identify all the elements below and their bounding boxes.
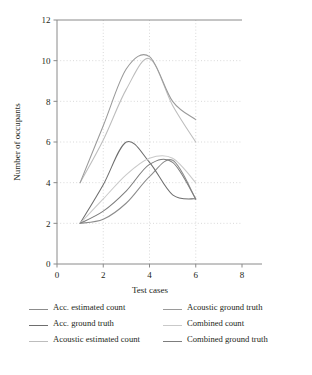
y-axis-title: Number of occupants [12,103,22,181]
legend-item[interactable]: Acoustic estimated count [29,334,155,347]
plot-area: 02468101202468 Number of occupants Test … [0,0,312,300]
y-tick-label: 0 [46,259,51,269]
legend-label: Combined count [187,318,244,329]
axis-ticks [54,20,243,268]
x-axis-title: Test cases [132,285,169,295]
legend-swatch-line-icon [29,321,48,331]
legend-item[interactable]: Combined count [163,318,289,331]
x-tick-label: 8 [240,270,245,280]
legend-item[interactable]: Acoustic ground truth [163,302,289,315]
legend-item[interactable]: Acc. estimated count [29,302,155,315]
y-tick-label: 4 [46,178,51,188]
x-tick-label: 6 [194,270,199,280]
y-tick-label: 6 [46,137,51,147]
y-tick-label: 12 [42,15,51,25]
y-tick-label: 8 [46,97,51,107]
legend-label: Acc. estimated count [53,302,125,313]
chart-container: 02468101202468 Number of occupants Test … [0,0,312,375]
series-line-5 [80,159,196,223]
legend-label: Combined ground truth [187,334,268,345]
legend-item[interactable]: Combined ground truth [163,334,289,347]
legend-swatch-line-icon [163,337,182,347]
legend-swatch-line-icon [29,337,48,347]
legend-item[interactable]: Acc. ground truth [29,318,155,331]
legend-label: Acoustic ground truth [187,302,262,313]
legend-column-0: Acc. estimated countAcc. ground truthAco… [29,302,155,375]
data-series [80,55,196,224]
legend-swatch-line-icon [163,321,182,331]
legend-column-1: Acoustic ground truthCombined countCombi… [163,302,289,375]
legend-label: Acc. ground truth [53,318,114,329]
legend-columns: Acc. estimated countAcc. ground truthAco… [23,302,289,375]
chart-legend: Acc. estimated countAcc. ground truthAco… [0,302,312,375]
legend-swatch-line-icon [29,305,48,315]
x-tick-label: 0 [55,270,60,280]
legend-label: Acoustic estimated count [53,334,140,345]
y-tick-label: 10 [42,56,52,66]
x-tick-label: 2 [101,270,106,280]
y-tick-label: 2 [46,219,51,229]
line-chart-svg: 02468101202468 Number of occupants Test … [0,0,312,300]
x-tick-label: 4 [147,270,152,280]
legend-swatch-line-icon [163,305,182,315]
series-line-2 [80,58,196,182]
